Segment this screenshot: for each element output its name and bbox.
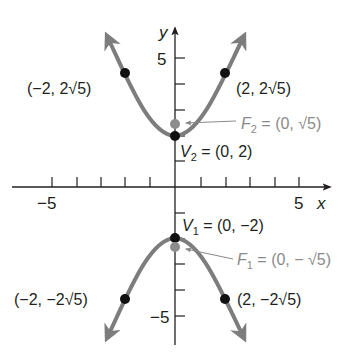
y-tick-label-5: 5 bbox=[157, 50, 166, 69]
label-vertex1: V1 = (0, −2) bbox=[182, 217, 264, 237]
focus1-leader-line bbox=[186, 249, 233, 259]
vertex2-point bbox=[170, 131, 180, 141]
y-axis-label: y bbox=[158, 23, 169, 42]
label-focus1: F1 = (0, − √5) bbox=[237, 251, 331, 271]
label-bottom-right-point: (2, −2√5) bbox=[237, 291, 301, 308]
x-axis-label: x bbox=[316, 194, 326, 213]
y-tick-label-neg5: −5 bbox=[150, 308, 169, 327]
x-tick-label-5: 5 bbox=[294, 194, 303, 213]
hyperbola-diagram: −5 5 x 5 −5 y (−2, 2√5) bbox=[0, 0, 363, 357]
point-top-right bbox=[220, 68, 230, 78]
focus1-point bbox=[170, 242, 180, 252]
label-vertex2: V2 = (0, 2) bbox=[180, 143, 252, 163]
vertex1-point bbox=[170, 233, 180, 243]
focus2-leader-line bbox=[186, 121, 236, 123]
point-bottom-right bbox=[220, 294, 230, 304]
y-axis: 5 −5 y bbox=[150, 23, 185, 345]
point-top-left bbox=[120, 68, 130, 78]
label-top-left-point: (−2, 2√5) bbox=[27, 80, 91, 97]
x-tick-label-neg5: −5 bbox=[37, 194, 56, 213]
label-bottom-left-point: (−2, −2√5) bbox=[14, 291, 88, 308]
label-focus2: F2 = (0, √5) bbox=[241, 115, 321, 135]
x-axis: −5 5 x bbox=[12, 177, 330, 213]
focus2-point bbox=[170, 119, 180, 129]
point-bottom-left bbox=[120, 294, 130, 304]
label-top-right-point: (2, 2√5) bbox=[236, 80, 291, 97]
